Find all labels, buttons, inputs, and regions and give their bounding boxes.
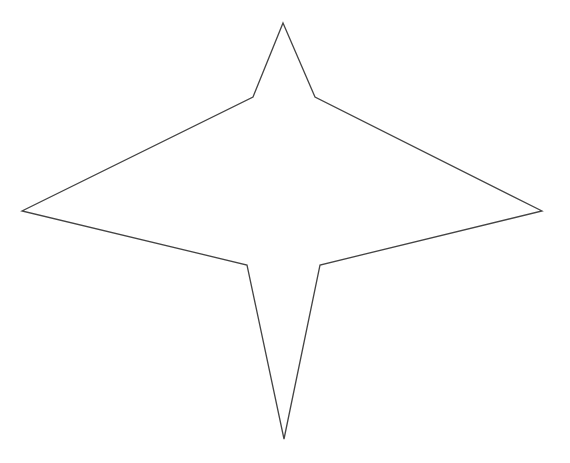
star-diagram	[0, 0, 570, 463]
diagram-canvas	[0, 0, 570, 463]
four-point-star-shape	[22, 23, 542, 439]
